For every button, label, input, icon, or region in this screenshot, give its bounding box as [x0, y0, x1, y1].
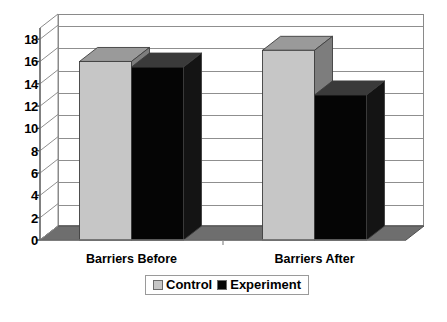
- y-axis-tick-label: 16: [24, 55, 38, 68]
- y-axis-tick-label: 2: [31, 212, 38, 225]
- y-axis-tick-label: 8: [31, 145, 38, 158]
- chart-geometry: [0, 0, 447, 322]
- bar-experiment-0-front-face: [132, 67, 184, 240]
- bar-experiment-1: [315, 81, 385, 240]
- y-axis-labels: 024681012141618: [10, 0, 38, 322]
- legend-label-control: Control: [166, 278, 212, 291]
- y-axis-tick-label: 12: [24, 100, 38, 113]
- bar-experiment-1-side-face: [367, 81, 385, 240]
- x-axis-category-label: Barriers Before: [52, 252, 212, 266]
- legend-swatch-experiment: [217, 280, 227, 290]
- chart-legend: Control Experiment: [145, 275, 309, 295]
- y-axis-tick-label: 10: [24, 122, 38, 135]
- y-axis-tick-label: 0: [31, 234, 38, 247]
- chart-container: 024681012141618 Barriers BeforeBarriers …: [0, 0, 447, 322]
- legend-item-control: Control: [153, 278, 212, 291]
- bar-experiment-1-front-face: [315, 95, 367, 240]
- legend-label-experiment: Experiment: [230, 278, 301, 291]
- legend-swatch-control: [153, 280, 163, 290]
- bar-control-1-front-face: [263, 50, 315, 240]
- bar-control-0-front-face: [80, 61, 132, 240]
- y-axis-tick-label: 4: [31, 189, 38, 202]
- x-axis-category-label: Barriers After: [235, 252, 395, 266]
- bar-experiment-0-side-face: [184, 53, 202, 240]
- y-axis-tick-label: 6: [31, 167, 38, 180]
- bar-experiment-0: [132, 53, 202, 240]
- legend-item-experiment: Experiment: [217, 278, 301, 291]
- bars-group: [80, 36, 385, 240]
- y-axis-tick-label: 18: [24, 33, 38, 46]
- y-axis-tick-label: 14: [24, 78, 38, 91]
